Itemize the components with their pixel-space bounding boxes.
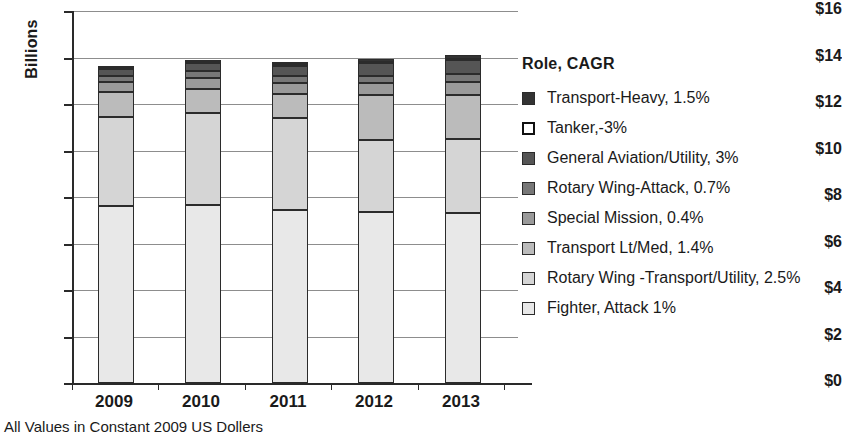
legend-item-group: Transport-Heavy, 1.5%Tanker,-3%General A… — [520, 83, 840, 323]
legend-swatch-icon — [522, 212, 535, 225]
bar-segment[interactable] — [272, 118, 308, 210]
bar-segment[interactable] — [272, 62, 308, 64]
legend-item[interactable]: Transport-Heavy, 1.5% — [520, 83, 840, 113]
bar-segment[interactable] — [272, 94, 308, 118]
bar-segment[interactable] — [185, 205, 221, 383]
legend-item-label: Fighter, Attack 1% — [547, 299, 676, 317]
legend-item[interactable]: Rotary Wing-Attack, 0.7% — [520, 173, 840, 203]
legend-swatch-icon — [522, 242, 535, 255]
bar-segment[interactable] — [98, 92, 134, 116]
x-axis-tick-mark — [158, 383, 159, 390]
legend-swatch-icon — [522, 182, 535, 195]
bar-segment[interactable] — [358, 83, 394, 95]
plot-area — [72, 11, 516, 383]
bar-segment[interactable] — [445, 139, 481, 213]
legend-item[interactable]: Rotary Wing -Transport/Utility, 2.5% — [520, 263, 840, 293]
y-axis-tick-label: $16 — [782, 0, 842, 18]
bar-2011[interactable] — [272, 11, 308, 383]
bar-segment[interactable] — [272, 66, 308, 76]
bar-segment[interactable] — [98, 66, 134, 68]
bar-segment[interactable] — [272, 210, 308, 383]
x-axis-tick-mark — [504, 383, 505, 390]
bar-segment[interactable] — [185, 113, 221, 205]
legend-item-label: Special Mission, 0.4% — [547, 209, 704, 227]
bar-segment[interactable] — [358, 76, 394, 83]
y-axis-title: Billions — [23, 0, 41, 109]
legend-item-label: General Aviation/Utility, 3% — [547, 149, 739, 167]
legend-item-label: Rotary Wing -Transport/Utility, 2.5% — [547, 269, 800, 287]
bar-segment[interactable] — [272, 83, 308, 93]
bar-segment[interactable] — [445, 95, 481, 139]
legend-item[interactable]: Tanker,-3% — [520, 113, 840, 143]
legend-item[interactable]: Fighter, Attack 1% — [520, 293, 840, 323]
bar-segment[interactable] — [98, 82, 134, 92]
y-axis-tick-label: $0 — [782, 372, 842, 390]
legend-item-label: Transport-Heavy, 1.5% — [547, 89, 710, 107]
x-axis-label-2011: 2011 — [248, 392, 328, 412]
bar-segment[interactable] — [445, 60, 481, 74]
bar-segment[interactable] — [358, 59, 394, 62]
x-axis-label-2012: 2012 — [334, 392, 414, 412]
bar-segment[interactable] — [358, 140, 394, 212]
legend-swatch-icon — [522, 92, 535, 105]
bar-segment[interactable] — [98, 206, 134, 383]
bar-segment[interactable] — [98, 69, 134, 76]
bar-segment[interactable] — [185, 78, 221, 88]
bar-segment[interactable] — [272, 76, 308, 83]
x-axis-tick-mark — [72, 383, 73, 390]
legend: Role, CAGR Transport-Heavy, 1.5%Tanker,-… — [520, 55, 840, 323]
chart-footnote: All Values in Constant 2009 US Dollers — [4, 418, 263, 435]
bar-segment[interactable] — [445, 213, 481, 383]
stacked-bar-chart: Billions $16$14$12$10$8$6$4$2$0 20092010… — [0, 0, 842, 441]
bar-segment[interactable] — [445, 74, 481, 82]
legend-item-label: Tanker,-3% — [547, 119, 627, 137]
bar-2012[interactable] — [358, 11, 394, 383]
bar-2009[interactable] — [98, 11, 134, 383]
bar-segment[interactable] — [98, 76, 134, 82]
legend-item-label: Rotary Wing-Attack, 0.7% — [547, 179, 730, 197]
legend-item[interactable]: Transport Lt/Med, 1.4% — [520, 233, 840, 263]
legend-swatch-icon — [522, 302, 535, 315]
legend-item[interactable]: General Aviation/Utility, 3% — [520, 143, 840, 173]
bar-2013[interactable] — [445, 11, 481, 383]
x-axis-tick-mark — [418, 383, 419, 390]
x-axis-line — [72, 383, 532, 385]
bar-segment[interactable] — [185, 89, 221, 113]
x-axis-tick-mark — [245, 383, 246, 390]
legend-swatch-icon — [522, 272, 535, 285]
bar-segment[interactable] — [358, 212, 394, 383]
bar-segment[interactable] — [185, 71, 221, 78]
x-axis-label-2010: 2010 — [161, 392, 241, 412]
bar-segment[interactable] — [445, 55, 481, 58]
x-axis-tick-mark — [331, 383, 332, 390]
bar-segment[interactable] — [358, 63, 394, 76]
x-axis-label-2013: 2013 — [421, 392, 501, 412]
bar-segment[interactable] — [98, 117, 134, 207]
bar-2010[interactable] — [185, 11, 221, 383]
legend-title: Role, CAGR — [522, 55, 840, 73]
bar-segment[interactable] — [185, 60, 221, 62]
bar-segment[interactable] — [445, 82, 481, 95]
bar-segment[interactable] — [185, 63, 221, 71]
legend-swatch-icon — [522, 122, 535, 135]
y-axis-tick-label: $2 — [782, 326, 842, 344]
legend-item[interactable]: Special Mission, 0.4% — [520, 203, 840, 233]
x-axis-label-2009: 2009 — [74, 392, 154, 412]
legend-swatch-icon — [522, 152, 535, 165]
bar-segment[interactable] — [358, 95, 394, 140]
legend-item-label: Transport Lt/Med, 1.4% — [547, 239, 714, 257]
